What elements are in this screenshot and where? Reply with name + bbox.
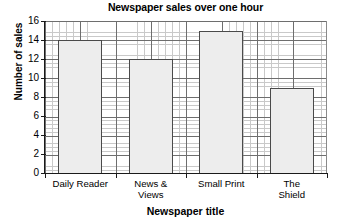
bar-chart: Newspaper sales over one hour Number of … (0, 0, 341, 222)
x-axis-tick (327, 173, 328, 178)
bar (58, 40, 102, 173)
x-axis-category-label: Daily Reader (53, 179, 108, 190)
y-axis-tick-label: 10 (28, 73, 39, 83)
y-axis-tick-label: 6 (33, 111, 39, 121)
grid-top-edge (45, 21, 327, 22)
x-axis-tick (186, 173, 187, 178)
y-axis-tick (41, 21, 46, 22)
y-axis-tick (41, 40, 46, 41)
bar (270, 88, 314, 174)
y-axis-tick-label: 2 (33, 149, 39, 159)
y-axis-tick (41, 78, 46, 79)
x-axis-category-label: The Shield (274, 179, 309, 200)
y-axis-tick-label: 14 (28, 35, 39, 45)
grid-right-edge (326, 21, 327, 173)
y-axis-tick (41, 97, 46, 98)
x-axis-category-label: Small Print (198, 179, 244, 190)
x-axis-tick (45, 173, 46, 178)
bar (199, 31, 243, 174)
y-axis-tick (41, 135, 46, 136)
x-axis-tick (116, 173, 117, 178)
x-axis-title: Newspaper title (44, 205, 327, 217)
y-axis-tick (41, 59, 46, 60)
x-axis-tick (257, 173, 258, 178)
chart-title: Newspaper sales over one hour (44, 1, 327, 14)
plot-area: 0246810121416 Daily ReaderNews & ViewsSm… (44, 21, 327, 174)
y-axis-tick-label: 0 (33, 168, 39, 178)
bar (129, 59, 173, 173)
y-axis-title: Number of sales (13, 2, 24, 122)
y-axis-tick (41, 154, 46, 155)
y-axis-tick-label: 4 (33, 130, 39, 140)
y-axis-tick-label: 8 (33, 92, 39, 102)
y-axis-tick-label: 16 (28, 16, 39, 26)
x-axis-category-label: News & Views (134, 179, 167, 200)
y-axis-tick-label: 12 (28, 54, 39, 64)
y-axis-tick (41, 116, 46, 117)
